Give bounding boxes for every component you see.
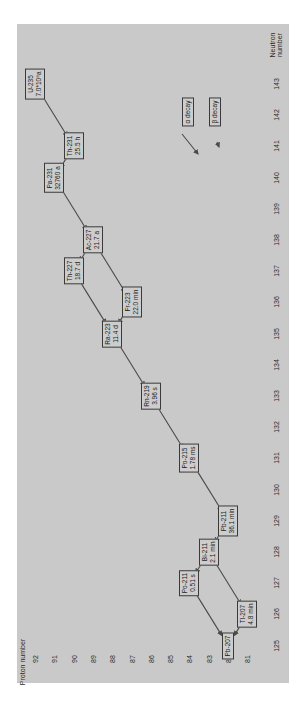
legend-alpha: α decay — [182, 98, 194, 127]
nuclide-po-211: Po-2110.51 s — [179, 570, 199, 596]
neutron-tick: 140 — [273, 172, 280, 184]
nuclide-th-227: Th-22718.7 d — [64, 258, 84, 285]
proton-tick: 83 — [205, 655, 212, 663]
proton-tick: 86 — [147, 655, 154, 663]
half-life: 1.78 ms — [189, 447, 197, 470]
nuclide-pb-211: Pb-21136.1 min — [218, 505, 238, 536]
half-life: 22.0 min — [132, 290, 140, 315]
half-life: 25.5 h — [74, 136, 82, 157]
neutron-tick: 133 — [273, 390, 280, 402]
proton-tick: 90 — [70, 655, 77, 663]
nuclide-rn-219: Rn-2193.96 s — [141, 382, 161, 409]
legend-alpha-arrow-icon — [182, 134, 198, 154]
nuclide-name: U-235 — [27, 71, 35, 96]
neutron-tick: 137 — [273, 265, 280, 277]
nuclide-u-235: U-2357.0*10⁸a — [25, 68, 45, 99]
neutron-tick: 135 — [273, 328, 280, 340]
half-life: 2.1 min — [209, 541, 217, 562]
proton-tick: 85 — [167, 655, 174, 663]
nuclide-name: Fr-223 — [124, 290, 132, 315]
nuclide-bi-211: Bi-2112.1 min — [199, 538, 219, 565]
neutron-tick: 132 — [273, 421, 280, 433]
neutron-axis-label: Neutron number — [269, 33, 283, 58]
half-life: 3.96 s — [151, 385, 159, 406]
nuclide-ac-227: Ac-22721.7 a — [83, 227, 103, 254]
half-life: 11.4 d — [112, 323, 120, 344]
nuclide-po-215: Po-2151.78 ms — [179, 444, 199, 473]
nuclide-name: Pb-211 — [220, 508, 228, 533]
half-life: 21.7 a — [93, 230, 101, 251]
nuclide-name: Pb-207 — [224, 635, 232, 656]
nuclide-pb-207: Pb-207 — [222, 632, 234, 659]
neutron-tick: 126 — [273, 609, 280, 621]
legend-beta-arrow-icon — [217, 142, 219, 147]
proton-tick: 87 — [128, 655, 135, 663]
proton-axis-label: Proton number — [19, 639, 26, 685]
alpha-decay-arrow — [119, 344, 145, 386]
half-life: 0.51 s — [189, 573, 197, 593]
legend-beta: β decay — [209, 98, 221, 127]
proton-tick: 81 — [244, 655, 251, 663]
proton-tick: 89 — [89, 655, 96, 663]
proton-tick: 92 — [32, 655, 39, 663]
alpha-decay-arrow — [157, 406, 183, 448]
neutron-tick: 143 — [273, 78, 280, 90]
neutron-tick: 134 — [273, 359, 280, 371]
neutron-tick: 128 — [273, 546, 280, 558]
nuclide-name: Ra-223 — [104, 323, 112, 344]
nuclide-pa-231: Pa-23132760 a — [44, 163, 64, 193]
alpha-decay-arrow — [61, 188, 87, 230]
nuclide-th-231: Th-23125.5 h — [64, 133, 84, 160]
nuclide-fr-223: Fr-22322.0 min — [122, 287, 142, 318]
alpha-decay-arrow — [215, 562, 241, 604]
proton-tick: 91 — [51, 655, 58, 663]
decay-arrows — [0, 0, 302, 704]
nuclide-name: Rn-219 — [143, 385, 151, 406]
neutron-tick: 129 — [273, 515, 280, 527]
nuclide-name: Th-231 — [66, 136, 74, 157]
neutron-tick: 131 — [273, 453, 280, 465]
half-life: 32760 a — [54, 166, 62, 190]
neutron-tick: 125 — [273, 640, 280, 652]
half-life: 4.8 min — [247, 604, 255, 625]
alpha-decay-arrow — [196, 469, 222, 511]
neutron-tick: 142 — [273, 109, 280, 121]
half-life: 7.0*10⁸a — [35, 71, 43, 96]
neutron-tick: 141 — [273, 141, 280, 153]
half-life: 36.1 min — [228, 508, 236, 533]
nuclide-name: Bi-211 — [201, 541, 209, 562]
proton-tick: 84 — [186, 655, 193, 663]
alpha-decay-arrow — [80, 281, 106, 323]
alpha-decay-arrow — [196, 593, 222, 635]
alpha-decay-arrow — [41, 94, 67, 136]
neutron-tick: 139 — [273, 203, 280, 215]
nuclide-name: Ac-227 — [85, 230, 93, 251]
proton-tick: 88 — [109, 655, 116, 663]
neutron-label-line2: number — [276, 33, 283, 57]
neutron-tick: 138 — [273, 234, 280, 246]
nuclide-name: Th-227 — [66, 261, 74, 282]
neutron-tick: 136 — [273, 297, 280, 309]
nuclide-ra-223: Ra-22311.4 d — [102, 320, 122, 347]
neutron-label-line1: Neutron — [269, 33, 276, 58]
half-life: 18.7 d — [74, 261, 82, 282]
neutron-tick: 130 — [273, 484, 280, 496]
nuclide-tl-207: Tl-2074.8 min — [237, 601, 257, 628]
neutron-tick: 127 — [273, 577, 280, 589]
